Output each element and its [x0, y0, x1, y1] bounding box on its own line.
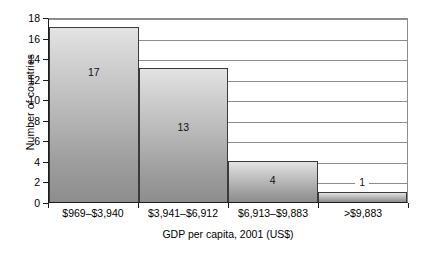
bar-value-label: 13: [139, 122, 229, 133]
plot-area: 171341: [48, 18, 408, 203]
y-tick-label: 18: [14, 13, 40, 23]
x-axis-tick-labels: $969–$3,940$3,941–$6,912$6,913–$9,883>$9…: [48, 207, 408, 219]
x-tick-label: >$9,883: [318, 207, 408, 219]
x-tick-label: $6,913–$9,883: [228, 207, 318, 219]
bar[interactable]: [49, 27, 139, 202]
x-tick-mark: [408, 203, 409, 208]
bar-value-label: 4: [228, 175, 318, 186]
bar-column: 1: [318, 19, 408, 202]
y-tick-label: 2: [14, 177, 40, 187]
x-tick-label: $969–$3,940: [48, 207, 138, 219]
bar-value-label: 1: [355, 177, 369, 188]
x-axis-title: GDP per capita, 2001 (US$): [48, 228, 408, 240]
bar[interactable]: [139, 68, 229, 202]
x-tick-label: $3,941–$6,912: [138, 207, 228, 219]
bar-column: 17: [49, 19, 139, 202]
bar[interactable]: [318, 192, 408, 202]
y-tick-label: 6: [14, 136, 40, 146]
y-tick-label: 14: [14, 54, 40, 64]
y-tick-label: 10: [14, 95, 40, 105]
bar-chart-figure: Number of countries 024681012141618 1713…: [0, 0, 422, 256]
y-tick-label: 4: [14, 157, 40, 167]
y-tick-label: 0: [14, 198, 40, 208]
y-tick-label: 12: [14, 75, 40, 85]
bar-column: 13: [139, 19, 229, 202]
bar-value-label: 17: [49, 67, 139, 78]
bar-column: 4: [228, 19, 318, 202]
y-tick-label: 16: [14, 34, 40, 44]
bar-series: 171341: [49, 19, 407, 202]
y-tick-label: 8: [14, 116, 40, 126]
